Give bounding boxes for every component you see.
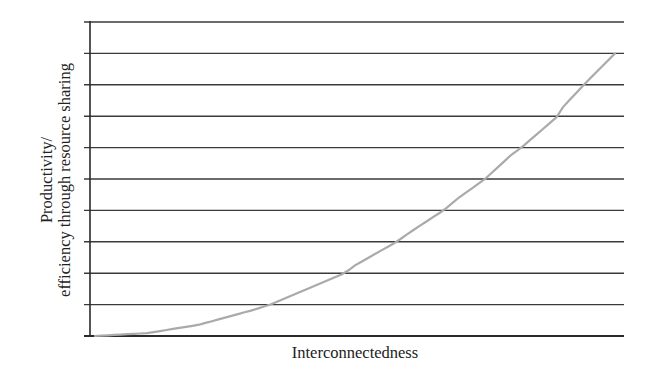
gridlines [84, 22, 624, 336]
chart-canvas [0, 0, 659, 389]
productivity-curve [95, 53, 615, 336]
x-axis-label: Interconnectedness [0, 343, 659, 363]
